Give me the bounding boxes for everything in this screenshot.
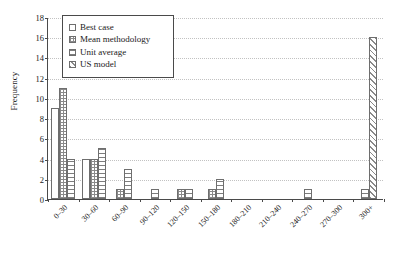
legend-item: Mean methodology xyxy=(69,34,167,45)
x-tick-mark xyxy=(79,199,80,202)
x-tick-mark xyxy=(140,199,141,202)
legend-item: US model xyxy=(69,59,167,70)
bar-unit-average xyxy=(151,189,159,199)
y-tick-label: 0 xyxy=(40,196,44,205)
bar-best-case xyxy=(51,108,59,199)
x-tick-mark xyxy=(231,199,232,202)
x-tick-label: 150–180 xyxy=(196,203,222,229)
bar-mean-methodology xyxy=(208,189,216,199)
y-tick-label: 4 xyxy=(40,155,44,164)
bar-mean-methodology xyxy=(90,159,98,199)
bar-unit-average xyxy=(216,179,224,199)
bar-group: 240–270 xyxy=(292,18,323,199)
bar-unit-average xyxy=(67,159,75,199)
x-tick-mark xyxy=(262,199,263,202)
x-tick-mark xyxy=(48,199,49,202)
x-tick-label: 210–240 xyxy=(257,203,283,229)
y-tick-label: 6 xyxy=(40,135,44,144)
y-tick-label: 18 xyxy=(36,14,45,23)
bar-us-model xyxy=(369,37,377,199)
legend-label: Mean methodology xyxy=(80,34,150,45)
x-tick-mark xyxy=(201,199,202,202)
legend-swatch-us-model xyxy=(69,61,76,68)
legend-item: Unit average xyxy=(69,47,167,58)
bar-unit-average xyxy=(98,148,106,199)
chart-figure: Frequency 0246810121416180–3030–6060–909… xyxy=(0,0,401,260)
bar-group: 120–150 xyxy=(170,18,201,199)
bar-group: 270–300 xyxy=(323,18,354,199)
bar-mean-methodology xyxy=(116,189,124,199)
y-axis-title: Frequency xyxy=(9,51,19,131)
bar-mean-methodology xyxy=(59,88,67,199)
bar-group: 150–180 xyxy=(201,18,232,199)
legend-label: Best case xyxy=(80,22,114,33)
y-tick-label: 8 xyxy=(40,115,44,124)
x-tick-mark xyxy=(384,199,385,202)
y-tick-label: 12 xyxy=(36,74,45,83)
x-tick-mark xyxy=(109,199,110,202)
bar-best-case xyxy=(82,159,90,199)
legend-swatch-mean-methodology xyxy=(69,36,76,43)
x-tick-label: 270–300 xyxy=(318,203,344,229)
x-tick-label: 180–210 xyxy=(227,203,253,229)
bar-unit-average xyxy=(185,189,193,199)
x-tick-mark xyxy=(292,199,293,202)
bar-unit-average xyxy=(304,189,312,199)
bar-group: 180–210 xyxy=(231,18,262,199)
y-tick-label: 10 xyxy=(36,95,45,104)
x-tick-label: 120–150 xyxy=(166,203,192,229)
legend-item: Best case xyxy=(69,22,167,33)
x-tick-label: 30–60 xyxy=(80,203,101,224)
legend-label: US model xyxy=(80,59,116,70)
bar-group: 210–240 xyxy=(262,18,293,199)
legend-swatch-unit-average xyxy=(69,49,76,56)
bar-unit-average xyxy=(361,189,369,199)
y-tick-label: 2 xyxy=(40,176,44,185)
x-tick-label: 240–270 xyxy=(288,203,314,229)
x-tick-label: 300+ xyxy=(357,203,375,221)
legend-swatch-best-case xyxy=(69,24,76,31)
bar-group: 300+ xyxy=(353,18,384,199)
x-tick-label: 0–30 xyxy=(52,203,70,221)
x-tick-label: 60–90 xyxy=(110,203,131,224)
x-tick-mark xyxy=(353,199,354,202)
y-tick-label: 16 xyxy=(36,34,45,43)
bar-unit-average xyxy=(124,169,132,199)
x-tick-mark xyxy=(170,199,171,202)
x-tick-mark xyxy=(323,199,324,202)
bar-mean-methodology xyxy=(177,189,185,199)
y-tick-label: 14 xyxy=(36,54,45,63)
chart-legend: Best caseMean methodologyUnit averageUS … xyxy=(62,15,174,78)
x-tick-label: 90–120 xyxy=(138,203,161,226)
legend-label: Unit average xyxy=(80,47,126,58)
